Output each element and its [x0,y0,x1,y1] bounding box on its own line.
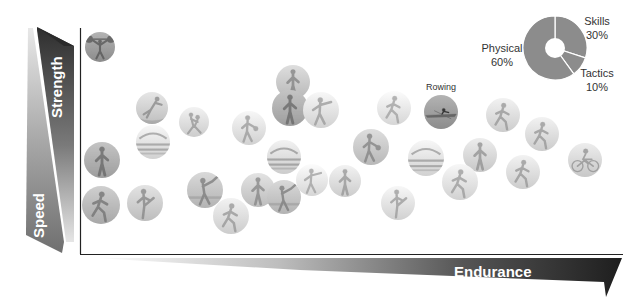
sport-weightlifting [85,32,115,62]
sport-athletics [377,91,411,125]
sport-cricket [329,165,361,197]
sport-tennis [213,198,249,234]
pool-icon [267,140,301,174]
sport-cycling [568,143,602,177]
run-icon [442,164,478,200]
stand-icon [329,165,361,197]
sport-basketball [232,111,266,145]
sport-judo [179,107,209,137]
sport-badminton [296,164,328,196]
sport-american-football [303,92,339,128]
sport-synchronized-swimming [136,125,170,159]
sport-long-distance [525,117,559,151]
pie-label-physical: Physical 60% [478,41,526,69]
boat-icon [424,95,458,129]
run-icon [377,91,411,125]
sport-middle-distance [486,98,520,132]
fight-icon [179,107,209,137]
gym-icon [136,92,168,124]
run-icon [486,98,520,132]
sport-cross-country [442,164,478,200]
run-icon [213,198,249,234]
pool-icon [136,125,170,159]
sport-soccer [381,186,415,220]
lift-icon [85,32,115,62]
run-icon [506,155,540,189]
pool-icon [408,140,444,176]
run-icon [82,186,120,224]
pie-label-skills: Skills 30% [574,14,620,42]
sport-marathon [506,155,540,189]
throw-icon [303,92,339,128]
bike-icon [568,143,602,177]
sport-sprint [82,186,120,224]
sport-water-polo [408,140,444,176]
kick-icon [381,186,415,220]
throw-icon [296,164,328,196]
sport-hurdles [84,142,120,178]
sport-rowing [424,95,458,129]
ball-icon [232,111,266,145]
ball-icon [353,129,389,165]
stand-icon [84,142,120,178]
run-icon [525,117,559,151]
sport-gymnastics [136,92,168,124]
sport-rugby [353,129,389,165]
sport-label-rowing: Rowing [426,82,456,92]
sport-karate [127,185,163,221]
kick-icon [127,185,163,221]
pie-label-tactics: Tactics 10% [572,66,622,94]
sport-swimming [267,140,301,174]
